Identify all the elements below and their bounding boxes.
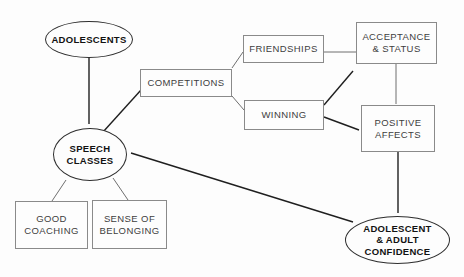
edge-speech-classes-to-competitions [103, 90, 141, 132]
node-winning-label: WINNING [261, 109, 306, 121]
node-sense-of-belonging-label-line2: BELONGING [99, 225, 159, 237]
node-sense-of-belonging-label-line1: SENSE OF [104, 213, 155, 225]
node-winning: WINNING [244, 100, 324, 130]
node-acceptance-status-label-line1: ACCEPTANCE [362, 31, 430, 43]
node-friendships: FRIENDSHIPS [243, 35, 324, 63]
node-friendships-label: FRIENDSHIPS [249, 43, 317, 55]
edge-speech-classes-to-sense-of-belonging [113, 178, 128, 200]
edge-speech-classes-to-good-coaching [52, 180, 66, 201]
node-sense-of-belonging: SENSE OF BELONGING [92, 200, 167, 249]
node-confidence-label-line1: ADOLESCENT [363, 223, 431, 235]
node-positive-affects-label-line2: AFFECTS [375, 129, 421, 141]
edge-competitions-to-friendships [232, 52, 243, 68]
node-speech-classes-label-line2: CLASSES [67, 155, 114, 167]
node-good-coaching-label-line2: COACHING [24, 225, 78, 237]
node-positive-affects-label-line1: POSITIVE [374, 117, 421, 129]
node-confidence-label-line3: CONFIDENCE [365, 246, 431, 258]
node-good-coaching: GOOD COACHING [15, 201, 88, 249]
node-good-coaching-label-line1: GOOD [36, 213, 67, 225]
node-speech-classes-label-line1: SPEECH [70, 143, 111, 155]
node-adolescents-label: ADOLESCENTS [51, 34, 126, 46]
edge-winning-to-positive-affects [324, 117, 359, 130]
node-adolescent-adult-confidence: ADOLESCENT & ADULT CONFIDENCE [345, 216, 450, 264]
node-competitions-label: COMPETITIONS [147, 77, 224, 89]
diagram-canvas: ADOLESCENTS SPEECH CLASSES GOOD COACHING… [0, 0, 464, 277]
node-competitions: COMPETITIONS [140, 69, 232, 97]
node-confidence-label-line2: & ADULT [376, 234, 419, 246]
node-adolescents: ADOLESCENTS [45, 21, 133, 58]
node-speech-classes: SPEECH CLASSES [53, 128, 127, 181]
edge-competitions-to-winning [232, 96, 244, 110]
node-acceptance-status-label-line2: & STATUS [372, 43, 420, 55]
node-positive-affects: POSITIVE AFFECTS [361, 105, 435, 152]
node-acceptance-status: ACCEPTANCE & STATUS [356, 22, 437, 64]
edge-winning-to-acceptance-status [324, 71, 353, 105]
